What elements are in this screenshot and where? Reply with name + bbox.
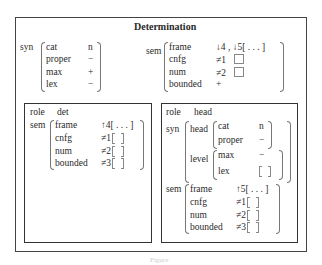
sem-attr-cnfg: cnfg	[169, 54, 186, 65]
sem-val-frame: ↑5[ . . . ]	[236, 184, 268, 195]
level-val-max: −	[259, 150, 264, 161]
sem-bracket-left	[185, 184, 189, 234]
sem-attr-frame: frame	[169, 42, 191, 53]
syn-val-lex: −	[88, 79, 93, 90]
sem-attr-num: num	[190, 210, 207, 221]
sem-val-cnfg: ≠1	[236, 197, 259, 208]
level-bracket-right	[279, 150, 283, 180]
empty-bracket-icon	[112, 133, 124, 143]
sem-val-num: ≠2	[216, 67, 244, 79]
empty-box-icon	[234, 67, 244, 77]
syn-val-proper: −	[88, 54, 93, 65]
construction-title: Determination	[134, 21, 196, 32]
sem-bracket-left	[50, 120, 54, 170]
role-label: role	[30, 107, 45, 118]
level-bracket-left	[213, 150, 217, 180]
head-label: head	[190, 124, 208, 135]
role-value-det: det	[57, 107, 69, 118]
sem-attr-bounded: bounded	[169, 79, 202, 90]
sem-label: sem	[30, 120, 45, 131]
head-val-proper: −	[259, 135, 264, 146]
sem-val-cnfg: ≠1	[101, 133, 124, 144]
syn-bracket-left	[185, 121, 189, 183]
level-attr-lex: lex	[218, 166, 230, 177]
syn-val-cat: n	[88, 42, 93, 53]
sem-attr-cnfg: cnfg	[190, 197, 207, 208]
sem-val-frame: ↓4 , ↓5[ . . . ]	[216, 42, 265, 53]
sem-attr-bounded: bounded	[190, 222, 223, 233]
head-bracket-left	[213, 121, 217, 149]
sem-val-cnfg: ≠1	[216, 54, 244, 66]
figure-caption: Figure	[150, 256, 168, 264]
syn-attr-proper: proper	[46, 54, 71, 65]
empty-bracket-icon	[247, 222, 259, 232]
syn-label: syn	[20, 42, 33, 53]
syn-bracket-right	[97, 42, 101, 92]
head-attr-proper: proper	[218, 135, 243, 146]
role-value-head: head	[194, 107, 212, 118]
empty-box-icon	[234, 54, 244, 64]
empty-bracket-icon	[112, 158, 124, 168]
sem-label: sem	[146, 46, 161, 57]
sem-bracket-left	[164, 42, 168, 92]
sem-val-frame: ↑4[ . . . ]	[101, 120, 133, 131]
empty-bracket-icon	[247, 197, 259, 207]
syn-val-max: +	[88, 67, 93, 78]
syn-bracket-right	[287, 121, 291, 183]
head-val-cat: n	[259, 121, 264, 132]
level-attr-max: max	[218, 150, 234, 161]
head-attr-cat: cat	[218, 121, 229, 132]
head-bracket-right	[268, 121, 272, 149]
sem-val-bounded: ≠3	[236, 222, 259, 233]
syn-bracket-left	[41, 42, 45, 92]
sem-attr-cnfg: cnfg	[55, 133, 72, 144]
syn-attr-cat: cat	[46, 42, 57, 53]
sem-val-num: ≠2	[101, 146, 124, 157]
sem-bracket-right	[276, 184, 280, 234]
empty-bracket-icon	[259, 166, 271, 176]
sem-val-bounded: ≠3	[101, 158, 124, 169]
sem-val-num: ≠2	[236, 210, 259, 221]
sem-attr-bounded: bounded	[55, 158, 88, 169]
sem-attr-num: num	[169, 67, 186, 78]
sem-bracket-right	[280, 42, 284, 92]
syn-attr-max: max	[46, 67, 62, 78]
sem-attr-num: num	[55, 146, 72, 157]
sem-attr-frame: frame	[190, 184, 212, 195]
empty-bracket-icon	[247, 210, 259, 220]
level-val-lex	[258, 166, 271, 177]
sem-attr-frame: frame	[55, 120, 77, 131]
syn-attr-lex: lex	[46, 79, 58, 90]
sem-bracket-right	[140, 120, 144, 170]
sem-label: sem	[166, 184, 181, 195]
role-label: role	[166, 107, 181, 118]
sem-val-bounded: +	[216, 79, 221, 90]
empty-bracket-icon	[112, 146, 124, 156]
syn-label: syn	[166, 124, 179, 135]
level-label: level	[190, 154, 208, 165]
